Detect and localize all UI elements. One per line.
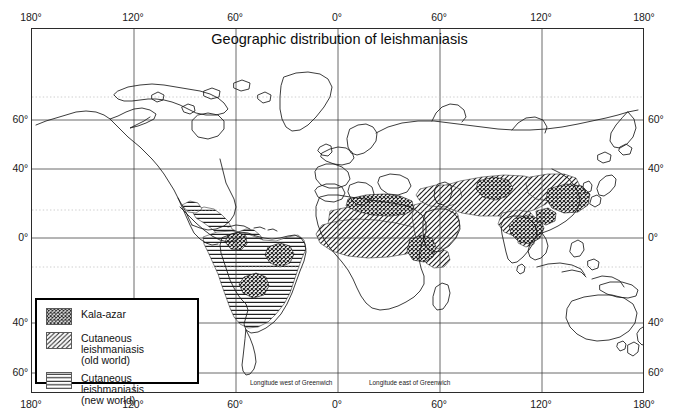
longitude-label-top-120e: 120° (530, 11, 551, 23)
legend-swatch-cross-hatch-icon (46, 308, 72, 325)
latitude-label-left-40s: 40° (12, 316, 28, 328)
legend-swatch-horizontal-hatch-icon (46, 372, 72, 389)
legend-sublabel-old-world: (old world) (81, 355, 197, 366)
longitude-label-bottom-180w: 180° (20, 398, 41, 410)
legend-label-cutaneous-new-world: Cutaneous leishmaniasis (81, 372, 144, 395)
longitude-east-note: Longitude east of Greenwich (369, 379, 450, 386)
latitude-label-left-60s: 60° (12, 366, 28, 378)
leishmaniasis-distribution-figure: 180° 120° 60° 0° 60° 120° 180° 180° 120°… (0, 0, 679, 420)
longitude-label-top-120w: 120° (122, 11, 143, 23)
legend-item-cutaneous-old-world: Cutaneous leishmaniasis (old world) (46, 331, 197, 365)
longitude-label-bottom-60e: 60° (431, 398, 447, 410)
legend-sublabel-new-world: (new world) (81, 395, 197, 406)
longitude-label-top-180w: 180° (20, 11, 41, 23)
latitude-label-right-40n: 40° (648, 162, 664, 174)
longitude-label-bottom-0: 0° (332, 398, 342, 410)
latitude-label-right-40s: 40° (648, 316, 664, 328)
legend-item-kala-azar: Kala-azar (46, 307, 197, 325)
legend-label-kala-azar-wrap: Kala-azar (81, 307, 126, 320)
longitude-label-bottom-60w: 60° (227, 398, 243, 410)
longitude-west-note: Longitude west of Greenwich (250, 379, 332, 386)
region-cutaneous-new-world (182, 201, 306, 328)
latitude-label-left-60n: 60° (12, 113, 28, 125)
latitude-label-right-60s: 60° (648, 366, 664, 378)
legend-label-cutaneous-new-world-wrap: Cutaneous leishmaniasis (new world) (81, 371, 197, 405)
disease-distribution-layer (182, 174, 590, 328)
map-legend: Kala-azar Cutaneous leishmaniasis (old w… (35, 298, 199, 384)
latitude-label-left-40n: 40° (12, 162, 28, 174)
latitude-label-right-60n: 60° (648, 113, 664, 125)
longitude-label-top-60e: 60° (431, 11, 447, 23)
legend-label-cutaneous-old-world: Cutaneous leishmaniasis (81, 332, 144, 355)
longitude-label-top-180e: 180° (633, 11, 654, 23)
legend-item-cutaneous-new-world: Cutaneous leishmaniasis (new world) (46, 371, 197, 405)
latitude-label-left-0: 0° (18, 231, 28, 243)
latitude-label-right-0: 0° (648, 231, 658, 243)
longitude-label-top-60w: 60° (227, 11, 243, 23)
page-title: Geographic distribution of leishmaniasis (211, 31, 467, 47)
longitude-label-bottom-120e: 120° (530, 398, 551, 410)
longitude-label-bottom-180e: 180° (633, 398, 654, 410)
longitude-label-top-0: 0° (332, 11, 342, 23)
legend-label-cutaneous-old-world-wrap: Cutaneous leishmaniasis (old world) (81, 331, 197, 365)
legend-label-kala-azar: Kala-azar (81, 308, 126, 320)
legend-swatch-diagonal-hatch-icon (46, 332, 72, 349)
